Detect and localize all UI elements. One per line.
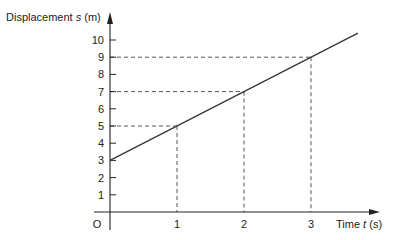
- y-tick-label: 1: [98, 189, 104, 201]
- x-axis-arrow-icon: [369, 209, 380, 215]
- x-tick-label: 3: [308, 218, 314, 230]
- y-axis-label: Displacement s (m): [6, 11, 101, 23]
- x-tick-label: 1: [174, 218, 180, 230]
- y-tick-label: 6: [98, 103, 104, 115]
- y-tick-label: 5: [98, 120, 104, 132]
- y-tick-label: 2: [98, 172, 104, 184]
- displacement-time-graph: 12345678910123ODisplacement s (m)Time t …: [0, 0, 398, 240]
- y-tick-label: 8: [98, 68, 104, 80]
- x-tick-label: 2: [241, 218, 247, 230]
- y-axis-arrow-icon: [107, 12, 113, 24]
- y-tick-label: 3: [98, 154, 104, 166]
- y-tick-label: 4: [98, 137, 104, 149]
- displacement-line: [110, 33, 358, 160]
- y-tick-label: 7: [98, 86, 104, 98]
- origin-label: O: [93, 218, 102, 230]
- x-axis-label: Time t (s): [336, 218, 382, 230]
- y-tick-label: 10: [92, 34, 104, 46]
- y-tick-label: 9: [98, 51, 104, 63]
